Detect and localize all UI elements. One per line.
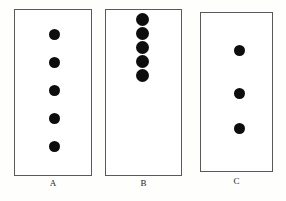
figure-canvas: ABC (0, 0, 286, 201)
panel-c-group: C (0, 0, 286, 201)
panel-c-dot (234, 88, 245, 99)
panel-c-dot (234, 45, 245, 56)
panel-c-label: C (200, 176, 273, 187)
panel-c-dot (234, 123, 245, 134)
